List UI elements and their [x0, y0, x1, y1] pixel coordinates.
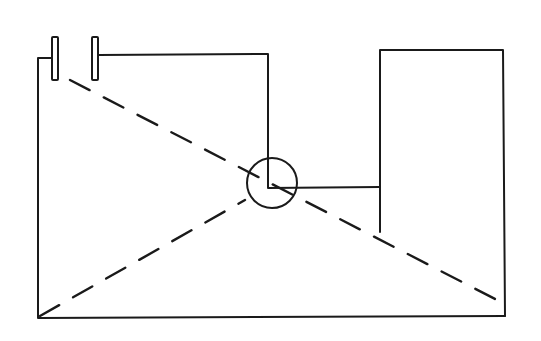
right-box	[380, 50, 505, 316]
diagram-canvas	[0, 0, 541, 341]
dashed-line-lower	[40, 200, 245, 316]
junction-circle	[247, 158, 297, 208]
dashed-line-upper	[70, 80, 497, 300]
schematic-drawing	[0, 0, 541, 341]
right-plate	[92, 37, 98, 80]
left-plate	[52, 37, 58, 80]
